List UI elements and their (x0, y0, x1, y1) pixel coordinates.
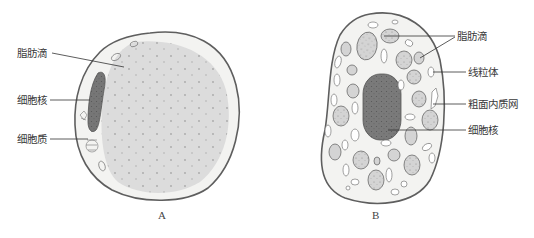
cell-a (50, 32, 239, 200)
label-a-nucleus: 细胞核 (17, 94, 47, 106)
label-b-rough-er: 粗面内质网 (468, 98, 518, 110)
cell-diagrams (0, 0, 534, 238)
label-a-cytoplasm: 细胞质 (17, 133, 47, 145)
caption-a: A (158, 209, 166, 221)
label-b-fat-droplet: 脂肪滴 (457, 30, 487, 42)
cell-b (322, 13, 466, 203)
figure: 脂肪滴 细胞核 细胞质 A 脂肪滴 线粒体 粗面内质网 细胞核 B (0, 0, 534, 238)
caption-b: B (372, 209, 379, 221)
label-b-mitochondria: 线粒体 (468, 66, 498, 78)
label-a-fat-droplet: 脂肪滴 (17, 47, 47, 59)
label-b-nucleus: 细胞核 (468, 124, 498, 136)
